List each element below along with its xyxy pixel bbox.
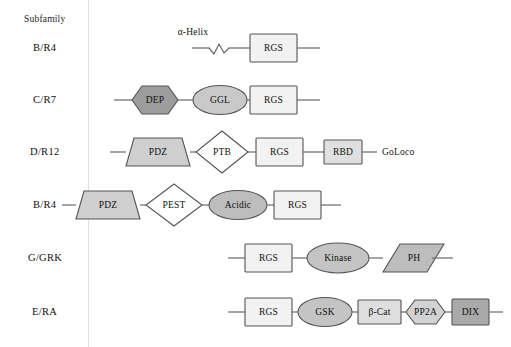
domain-label-pp2a: PP2A bbox=[414, 307, 437, 317]
row-track-e-ra: RGS GSK β-Cat PP2A DIX bbox=[0, 0, 511, 347]
domain-label-dix: DIX bbox=[462, 307, 480, 317]
domain-label-rgs: RGS bbox=[259, 307, 278, 317]
domain-architecture-figure: Subfamily B/R4 C/R7 D/R12 B/R4 G/GRK E/R… bbox=[0, 0, 511, 347]
domain-label-beta-cat: β-Cat bbox=[368, 307, 390, 317]
domain-label-gsk: GSK bbox=[315, 307, 335, 317]
